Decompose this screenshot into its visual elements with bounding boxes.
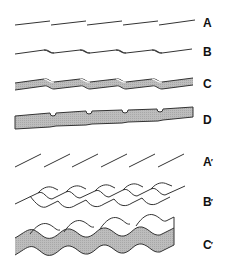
label-a: A xyxy=(203,17,212,29)
row-b-prime-waves xyxy=(15,183,185,208)
row-d-notched-band xyxy=(15,107,193,129)
label-d: D xyxy=(203,114,212,126)
prime-mark: ′ xyxy=(211,197,213,207)
label-a-text: A xyxy=(203,16,212,30)
label-c: C xyxy=(203,78,212,90)
label-d-text: D xyxy=(203,113,212,127)
label-a-prime: A′ xyxy=(203,156,213,168)
row-a-prime-strokes xyxy=(15,154,184,167)
row-a-segments xyxy=(15,20,195,25)
row-b-twisted-line xyxy=(15,49,192,54)
label-c-prime: C′ xyxy=(203,239,213,251)
row-c-twisted-band xyxy=(15,78,193,90)
diagram-canvas xyxy=(0,0,225,268)
prime-mark: ′ xyxy=(211,157,213,167)
row-c-prime-corrugated-sheet xyxy=(15,214,174,255)
label-c-text: C xyxy=(203,77,212,91)
label-b-prime: B′ xyxy=(203,196,213,208)
label-b: B xyxy=(203,46,212,58)
prime-mark: ′ xyxy=(211,240,213,250)
label-b-text: B xyxy=(203,45,212,59)
